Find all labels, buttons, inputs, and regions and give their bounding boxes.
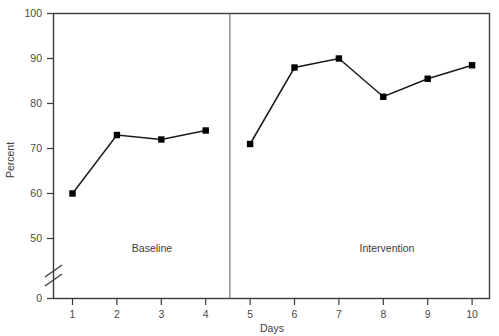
chart-background bbox=[0, 0, 499, 336]
phase-label-intervention: Intervention bbox=[360, 242, 415, 254]
x-axis-title: Days bbox=[260, 322, 284, 334]
x-tick-label-6: 6 bbox=[292, 308, 298, 320]
x-tick-label-2: 2 bbox=[114, 308, 120, 320]
x-tick-label-3: 3 bbox=[158, 308, 164, 320]
y-axis-title: Percent bbox=[4, 142, 16, 178]
x-tick-label-7: 7 bbox=[336, 308, 342, 320]
data-point-day-2 bbox=[114, 132, 120, 138]
data-point-day-8 bbox=[380, 94, 386, 100]
y-tick-label-50: 50 bbox=[30, 232, 42, 244]
y-tick-label-60: 60 bbox=[30, 187, 42, 199]
y-tick-label-80: 80 bbox=[30, 97, 42, 109]
phase-label-baseline: Baseline bbox=[132, 242, 172, 254]
data-point-day-7 bbox=[336, 55, 342, 61]
y-tick-label-0: 0 bbox=[36, 292, 42, 304]
y-tick-label-70: 70 bbox=[30, 142, 42, 154]
x-tick-label-1: 1 bbox=[70, 308, 76, 320]
data-point-day-5 bbox=[247, 141, 253, 147]
line-chart: 100 90 80 70 60 50 0 Percent 1 2 3 4 5 6… bbox=[0, 0, 499, 336]
data-point-day-4 bbox=[203, 127, 209, 133]
data-point-day-3 bbox=[158, 136, 164, 142]
y-tick-label-100: 100 bbox=[24, 7, 42, 19]
y-tick-label-90: 90 bbox=[30, 52, 42, 64]
x-tick-label-10: 10 bbox=[466, 308, 478, 320]
data-point-day-6 bbox=[291, 64, 297, 70]
data-point-day-10 bbox=[469, 62, 475, 68]
x-tick-label-8: 8 bbox=[380, 308, 386, 320]
data-point-day-9 bbox=[425, 76, 431, 82]
chart-container: 100 90 80 70 60 50 0 Percent 1 2 3 4 5 6… bbox=[0, 0, 499, 336]
x-tick-label-9: 9 bbox=[425, 308, 431, 320]
x-tick-label-5: 5 bbox=[247, 308, 253, 320]
data-point-day-1 bbox=[69, 190, 75, 196]
x-tick-label-4: 4 bbox=[203, 308, 209, 320]
